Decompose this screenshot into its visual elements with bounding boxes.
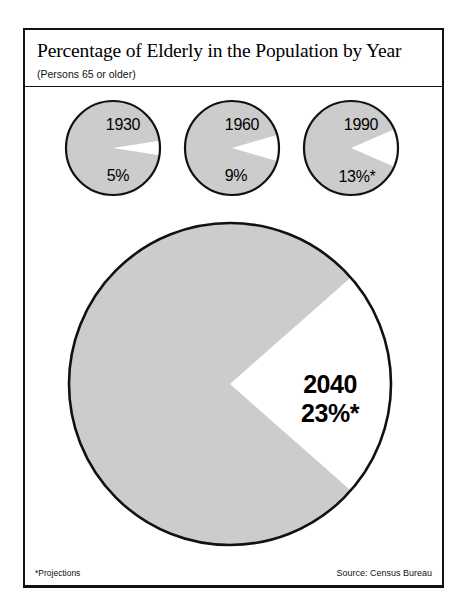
pie-percent-label-1930: 5%	[107, 167, 130, 185]
pie-year-label-1960: 1960	[225, 116, 259, 134]
pie-percent-label-2040: 23%*	[301, 399, 359, 428]
chart-frame: Percentage of Elderly in the Population …	[23, 28, 444, 588]
pie-year-label-1930: 1930	[106, 116, 140, 134]
pie-percent-label-1990: 13%*	[338, 168, 375, 186]
footnote-projections: *Projections	[35, 568, 80, 578]
title-divider	[25, 86, 442, 87]
footer-divider	[25, 585, 442, 586]
chart-title: Percentage of Elderly in the Population …	[37, 40, 401, 62]
chart-subtitle: (Persons 65 or older)	[37, 68, 136, 80]
pie-percent-label-1960: 9%	[225, 167, 248, 185]
pie-year-label-1990: 1990	[344, 116, 378, 134]
source-attribution: Source: Census Bureau	[336, 568, 432, 578]
pie-year-label-2040: 2040	[303, 370, 357, 399]
